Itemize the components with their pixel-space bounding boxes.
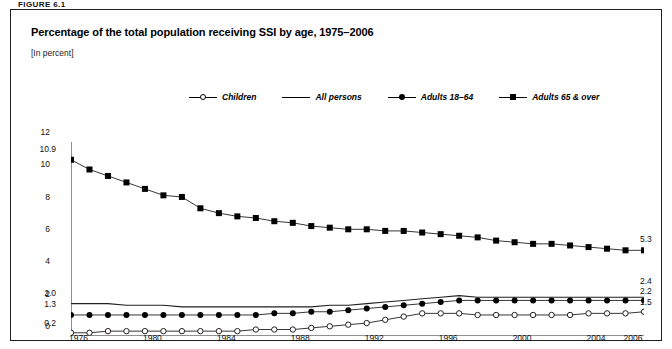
label-adults65-start: 10.9 (32, 144, 56, 154)
chart-legend: Children All persons Adults 18–64 Adults… (189, 92, 599, 102)
circle-open-icon (189, 93, 217, 102)
y-axis-tick-label: 12 (28, 127, 50, 137)
legend-label: Adults 18–64 (421, 92, 473, 102)
y-axis-tick-label: 4 (28, 256, 50, 266)
x-axis-tick-label: 2006 (613, 333, 653, 343)
label-children-end: 1.5 (640, 297, 652, 307)
label-allpersons-start: 2.0 (32, 288, 56, 298)
label-adults1864-end: 2.2 (640, 286, 652, 296)
x-axis-tick-label: 1980 (132, 333, 172, 343)
legend-label: Children (222, 92, 256, 102)
circle-filled-icon (388, 93, 416, 102)
label-adults65-end: 5.3 (640, 234, 652, 244)
series-all-persons (71, 296, 644, 307)
legend-label: All persons (315, 92, 361, 102)
label-children-start: 0.2 (32, 318, 56, 328)
x-axis-tick-label: 1988 (280, 333, 320, 343)
series-adults-65-over (71, 157, 644, 254)
legend-item-adults-65-over[interactable]: Adults 65 & over (499, 92, 599, 102)
figure-frame: Percentage of the total population recei… (10, 9, 662, 341)
legend-label: Adults 65 & over (532, 92, 599, 102)
series-children (71, 309, 644, 335)
legend-item-children[interactable]: Children (189, 92, 256, 102)
label-adults1864-start: 1.3 (32, 299, 56, 309)
x-axis-tick-label: 2004 (576, 333, 616, 343)
y-axis-tick-label: 10 (28, 159, 50, 169)
square-filled-icon (499, 93, 527, 102)
chart-title: Percentage of the total population recei… (31, 26, 373, 38)
chart-subtitle: [In percent] (31, 48, 74, 58)
y-axis-tick-label: 8 (28, 192, 50, 202)
label-allpersons-end: 2.4 (640, 276, 652, 286)
legend-item-adults-18-64[interactable]: Adults 18–64 (388, 92, 473, 102)
line-icon (282, 93, 310, 102)
x-axis-tick-label: 1984 (206, 333, 246, 343)
plot-area (71, 142, 644, 336)
x-axis-tick-label: 2000 (502, 333, 542, 343)
y-axis-tick-label: 6 (28, 224, 50, 234)
figure-label: FIGURE 6.1 (18, 0, 138, 8)
legend-item-all-persons[interactable]: All persons (282, 92, 361, 102)
x-axis-tick-label: 1992 (354, 333, 394, 343)
x-axis-tick-label: 1976 (58, 333, 98, 343)
x-axis-tick-label: 1996 (428, 333, 468, 343)
